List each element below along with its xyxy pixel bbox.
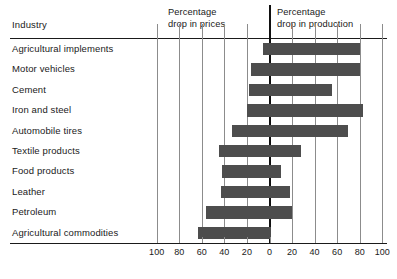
axis-tick-label: 80: [355, 247, 365, 257]
gridline-header: [315, 24, 316, 39]
axis-tick: [337, 237, 338, 243]
chart-header: Industry Percentage drop in prices Perce…: [0, 0, 397, 38]
gridline: [360, 38, 361, 243]
bar: [219, 145, 301, 157]
diverging-bar-chart: Industry Percentage drop in prices Perce…: [0, 0, 397, 279]
column-header-prices-line1: Percentage: [168, 6, 225, 18]
axis-tick-label: 80: [174, 247, 184, 257]
column-header-production-line1: Percentage: [277, 6, 353, 18]
gridline: [179, 38, 180, 243]
axis-tick: [270, 237, 271, 243]
gridline-header: [292, 24, 293, 39]
gridline-header: [157, 24, 158, 39]
bar: [249, 84, 331, 96]
gridline-header: [247, 24, 248, 39]
column-header-prices-line2: drop in prices: [168, 18, 225, 30]
plot-area: [0, 39, 397, 243]
axis-tick-label: 60: [197, 247, 207, 257]
gridline-header: [360, 24, 361, 39]
x-axis: 10080604020020406080100: [0, 243, 397, 279]
axis-tick: [382, 237, 383, 243]
axis-tick-label: 0: [267, 247, 272, 257]
bar: [222, 165, 281, 177]
gridline-header: [337, 24, 338, 39]
axis-tick-label: 60: [332, 247, 342, 257]
gridline-header: [224, 24, 225, 39]
zero-axis-line-header: [269, 5, 271, 39]
gridline: [157, 38, 158, 243]
axis-tick-label: 20: [242, 247, 252, 257]
bar: [247, 104, 363, 116]
bar: [198, 227, 270, 239]
gridline: [202, 38, 203, 243]
bar: [263, 43, 360, 55]
axis-tick: [202, 237, 203, 243]
axis-tick: [179, 237, 180, 243]
bar: [232, 125, 348, 137]
bar: [221, 186, 290, 198]
gridline-header: [382, 24, 383, 39]
axis-tick-label: 40: [310, 247, 320, 257]
axis-tick: [315, 237, 316, 243]
axis-tick-label: 40: [219, 247, 229, 257]
axis-tick: [224, 237, 225, 243]
column-header-industry: Industry: [12, 19, 47, 30]
gridline-header: [202, 24, 203, 39]
bar: [206, 206, 292, 218]
axis-tick-label: 100: [375, 247, 390, 257]
axis-tick-label: 100: [149, 247, 164, 257]
bar: [251, 63, 359, 75]
gridline: [382, 38, 383, 243]
axis-tick: [292, 237, 293, 243]
gridline-header: [179, 24, 180, 39]
axis-tick: [247, 237, 248, 243]
axis-tick-label: 20: [287, 247, 297, 257]
axis-tick: [360, 237, 361, 243]
column-header-prices: Percentage drop in prices: [168, 6, 225, 31]
axis-tick: [157, 237, 158, 243]
